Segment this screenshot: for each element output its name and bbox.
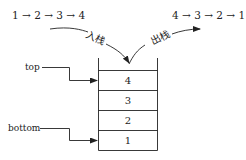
pop-arrow-tail: [129, 45, 145, 64]
pop-sequence: 4 → 3 → 2 → 1: [172, 9, 245, 21]
stack-cell-top: 4: [125, 75, 131, 86]
pop-arrow: [172, 29, 200, 34]
bottom-pointer-arrow: [40, 129, 97, 141]
push-arrow-tail: [50, 28, 88, 32]
pop-label: 出栈: [148, 27, 171, 47]
push-label: 入栈: [84, 28, 107, 47]
stack-diagram: 1 → 2 → 3 → 4 4 → 3 → 2 → 1 入栈 出栈 4 3 2 …: [0, 0, 246, 160]
top-pointer-label: top: [25, 62, 40, 72]
stack-cell: 2: [125, 115, 131, 126]
push-arrow: [106, 44, 129, 63]
top-pointer-arrow: [42, 68, 97, 81]
push-sequence: 1 → 2 → 3 → 4: [12, 9, 85, 21]
stack-cell: 3: [125, 95, 131, 106]
stack-cell-bottom: 1: [125, 135, 131, 146]
bottom-pointer-label: bottom: [8, 123, 41, 133]
